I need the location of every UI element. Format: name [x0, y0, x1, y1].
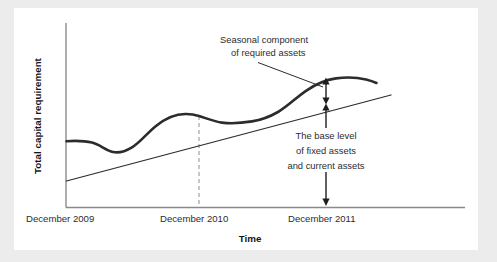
- seasonal-annotation-line1: Seasonal component: [220, 34, 308, 45]
- base-level-annotation: The base level of fixed assets and curre…: [287, 130, 364, 171]
- capital-requirement-chart: Seasonal component of required assets Th…: [0, 0, 497, 262]
- figure-root: Seasonal component of required assets Th…: [0, 0, 497, 262]
- x-axis-title: Time: [239, 233, 262, 244]
- base-level-arrow-head-down: [322, 199, 329, 207]
- base-level-annotation-line1: The base level: [296, 130, 357, 141]
- total-capital-requirement-curve: [67, 77, 377, 152]
- seasonal-gap-arrow-head-down: [322, 98, 329, 105]
- x-tick-labels: December 2009 December 2010 December 201…: [26, 213, 356, 224]
- base-level-annotation-line3: and current assets: [287, 160, 364, 171]
- seasonal-component-annotation: Seasonal component of required assets: [220, 34, 323, 87]
- seasonal-leader-line: [258, 63, 323, 88]
- base-level-annotation-line2: of fixed assets: [296, 145, 356, 156]
- x-tick-label-december-2011: December 2011: [288, 213, 356, 224]
- base-level-arrow-head-up: [322, 104, 329, 111]
- seasonal-annotation-line2: of required assets: [231, 47, 306, 58]
- x-tick-label-december-2009: December 2009: [26, 213, 94, 224]
- y-axis-title: Total capital requirement: [32, 57, 43, 174]
- x-tick-label-december-2010: December 2010: [160, 213, 228, 224]
